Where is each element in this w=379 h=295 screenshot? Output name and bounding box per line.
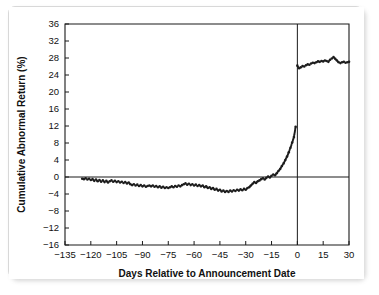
data-point-interp [103, 180, 105, 182]
data-point-interp [206, 186, 208, 188]
data-point-interp [335, 59, 337, 61]
data-point-interp [265, 178, 267, 180]
plot-background [9, 7, 364, 279]
data-point-interp [294, 127, 296, 129]
x-tick-label: −15 [263, 249, 279, 260]
x-tick-label: −60 [186, 249, 202, 260]
data-point-interp [213, 188, 215, 190]
data-point-interp [275, 173, 277, 175]
data-point-interp [252, 182, 254, 184]
y-tick-label: 36 [48, 18, 59, 29]
x-tick-label: −90 [134, 249, 150, 260]
figure-frame: −16−12−8−404812162024283236 −135−120−105… [8, 6, 363, 278]
x-tick-label: −30 [238, 249, 254, 260]
data-point-interp [129, 182, 131, 184]
x-tick-label: −75 [160, 249, 176, 260]
y-tick-label: 0 [54, 171, 59, 182]
data-point-interp [270, 176, 272, 178]
data-point-interp [333, 57, 335, 59]
data-point-interp [293, 137, 295, 139]
data-point-interp [285, 157, 287, 159]
x-tick-label: 30 [344, 249, 355, 260]
data-point-interp [256, 181, 258, 183]
y-tick-label: 8 [54, 137, 59, 148]
data-point-interp [216, 189, 218, 191]
data-point-interp [106, 181, 108, 183]
data-point [348, 61, 351, 64]
data-point-interp [297, 66, 299, 68]
data-point-interp [246, 188, 248, 190]
data-point-interp [291, 143, 293, 145]
x-tick-label: −135 [54, 249, 75, 260]
x-tick-label: −105 [106, 249, 127, 260]
x-tick-label: −120 [80, 249, 101, 260]
y-tick-label: −4 [48, 188, 59, 199]
x-axis-title: Days Relative to Announcement Date [119, 268, 296, 279]
data-point-interp [282, 164, 284, 166]
y-tick-label: 20 [48, 86, 59, 97]
y-tick-label: 4 [54, 154, 59, 165]
data-point-interp [280, 166, 282, 168]
data-point-interp [96, 179, 98, 181]
data-point-interp [284, 160, 286, 162]
y-tick-label: 28 [48, 52, 59, 63]
data-point-interp [99, 180, 101, 182]
x-tick-label: 15 [318, 249, 329, 260]
x-tick-label: −45 [212, 249, 228, 260]
chart-canvas: −16−12−8−404812162024283236 −135−120−105… [9, 7, 364, 279]
data-point-interp [277, 171, 279, 173]
y-tick-label: 24 [48, 69, 59, 80]
y-tick-label: 12 [48, 120, 59, 131]
data-point-interp [287, 152, 289, 154]
y-tick-label: 16 [48, 103, 59, 114]
x-tick-label: 0 [295, 249, 300, 260]
data-point-interp [249, 185, 251, 187]
data-point-interp [92, 179, 94, 181]
data-point-interp [289, 148, 291, 150]
data-point-interp [220, 190, 222, 192]
cumulative-abnormal-return-chart: −16−12−8−404812162024283236 −135−120−105… [9, 7, 364, 279]
data-point-interp [278, 169, 280, 171]
y-tick-label: 32 [48, 35, 59, 46]
data-point-interp [209, 187, 211, 189]
y-tick-label: −8 [48, 205, 59, 216]
data-point-interp [337, 60, 339, 62]
y-tick-label: −12 [43, 222, 59, 233]
data-point-interp [203, 185, 205, 187]
data-point-interp [251, 184, 253, 186]
data-point-interp [328, 60, 330, 62]
y-axis-title: Cumulative Abnormal Return (%) [16, 56, 27, 212]
